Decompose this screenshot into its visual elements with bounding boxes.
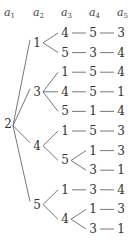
tree-node-a4: 5 <box>89 65 97 79</box>
tree-edge-branch <box>43 190 58 205</box>
tree-edge-branch <box>13 40 30 126</box>
tree-node-a2: 3 <box>33 85 41 99</box>
tree-node-a4: 5 <box>89 26 97 40</box>
tree-edge-branch <box>13 89 30 126</box>
tree-edge-branch <box>71 219 86 229</box>
tree-node-a3: 4 <box>61 26 69 40</box>
column-header-a2: a2 <box>33 6 44 20</box>
tree-node-a4: 1 <box>89 144 97 158</box>
permutation-tree-diagram: a1a2a3a4a5 21453534315445151441535133151… <box>0 0 135 249</box>
tree-node-a5: 4 <box>117 183 125 197</box>
tree-node-a5: 1 <box>117 163 125 177</box>
tree-node-a4: 3 <box>89 163 97 177</box>
tree-edge-branch <box>71 160 86 170</box>
tree-node-a5: 1 <box>117 85 125 99</box>
column-header-a3: a3 <box>61 6 72 20</box>
column-header-a4: a4 <box>89 6 101 20</box>
tree-node-a3: 5 <box>61 153 69 167</box>
tree-node-a4: 3 <box>89 46 97 60</box>
tree-node-a3: 1 <box>61 65 69 79</box>
tree-node-a5: 4 <box>117 46 125 60</box>
tree-node-a5: 3 <box>117 202 125 216</box>
tree-edge-branch <box>13 126 30 143</box>
tree-edge-branch <box>71 209 86 219</box>
tree-node-a5: 3 <box>117 26 125 40</box>
column-header-a1: a1 <box>4 6 15 20</box>
tree-edge-branch <box>43 146 58 161</box>
tree-node-a4: 3 <box>89 183 97 197</box>
tree-node-a4: 5 <box>89 85 97 99</box>
column-header-a5: a5 <box>117 6 128 20</box>
tree-node-a3: 1 <box>61 124 69 138</box>
tree-node-a5: 1 <box>117 222 125 236</box>
tree-edge-branch <box>43 92 58 112</box>
tree-node-a4: 1 <box>89 104 97 118</box>
tree-node-a3: 5 <box>61 46 69 60</box>
tree-node-a4: 3 <box>89 222 97 236</box>
tree-edge-branch <box>13 126 30 202</box>
tree-edge-branch <box>43 33 58 43</box>
tree-node-a5: 4 <box>117 65 125 79</box>
tree-node-a2: 5 <box>33 198 41 212</box>
tree-node-a3: 1 <box>61 183 69 197</box>
tree-node-a3: 4 <box>61 85 69 99</box>
column-headers: a1a2a3a4a5 <box>4 6 128 20</box>
tree-node-a5: 3 <box>117 144 125 158</box>
tree-node-a2: 4 <box>33 139 41 153</box>
tree-node-a5: 4 <box>117 104 125 118</box>
tree-edge-branch <box>71 151 86 161</box>
tree-node-a1: 2 <box>4 117 12 131</box>
tree-edge-branch <box>43 43 58 53</box>
tree-node-a4: 1 <box>89 202 97 216</box>
tree-edge-branch <box>43 72 58 92</box>
tree-node-a4: 5 <box>89 124 97 138</box>
tree-node-a3: 5 <box>61 104 69 118</box>
tree-node-a3: 4 <box>61 212 69 226</box>
tree-node-a2: 1 <box>33 36 41 50</box>
tree-edge-branch <box>43 205 58 220</box>
tree-edge-branch <box>43 131 58 146</box>
tree-node-a5: 3 <box>117 124 125 138</box>
